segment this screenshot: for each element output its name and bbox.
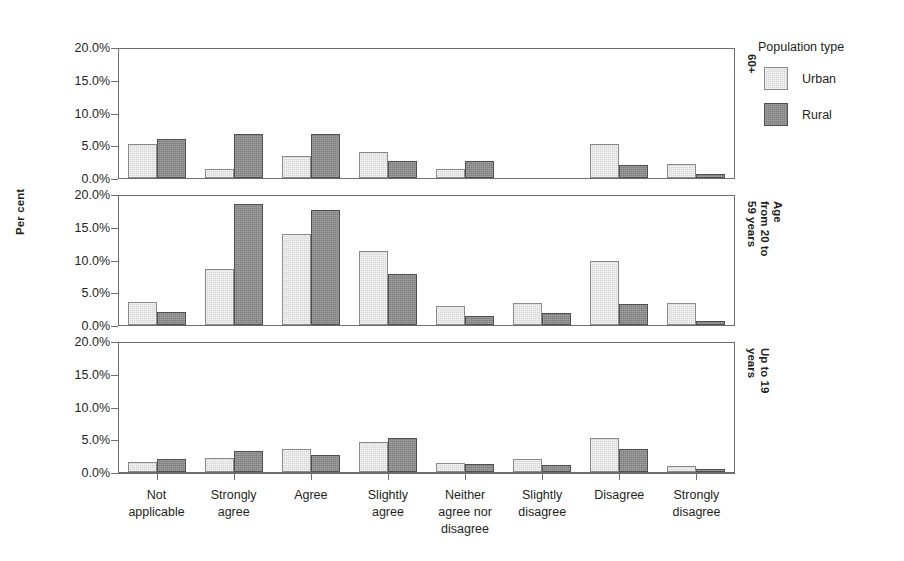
bar-rural	[542, 313, 571, 325]
y-tick-label: 20.0%	[75, 335, 110, 349]
bar-urban	[667, 164, 696, 178]
bar-rural	[542, 465, 571, 472]
x-axis: Not applicableStrongly agreeAgreeSlightl…	[118, 473, 735, 561]
bar-urban	[667, 466, 696, 472]
x-tick-mark	[542, 473, 543, 480]
bar-group	[350, 196, 427, 325]
bar-urban	[359, 152, 388, 178]
y-axis: 0.0%5.0%10.0%15.0%20.0%	[38, 195, 118, 326]
y-tick-label: 5.0%	[82, 433, 111, 447]
y-tick-mark	[111, 228, 118, 229]
y-tick-mark	[111, 114, 118, 115]
bar-rural	[465, 464, 494, 472]
bar-group	[580, 49, 657, 178]
legend-label-urban: Urban	[802, 72, 836, 86]
bar-urban	[128, 144, 157, 178]
bar-rural	[157, 139, 186, 178]
bar-group	[427, 343, 504, 472]
bar-urban	[590, 144, 619, 178]
legend-title: Population type	[758, 40, 898, 54]
bar-group	[350, 343, 427, 472]
panel-strip-label: Age from 20 to 59 years	[745, 195, 865, 326]
chart-panel	[118, 48, 735, 179]
bar-group	[273, 49, 350, 178]
bar-rural	[234, 134, 263, 178]
panel-strip-text: Up to 19 years	[745, 348, 771, 488]
y-tick-label: 0.0%	[82, 466, 111, 480]
panel-strip-text: 60+	[745, 54, 758, 194]
bar-rural	[619, 449, 648, 472]
bar-group	[580, 343, 657, 472]
bar-rural	[465, 316, 494, 325]
bar-rural	[234, 204, 263, 325]
bar-group	[657, 49, 734, 178]
bar-urban	[282, 234, 311, 325]
y-tick-label: 20.0%	[75, 41, 110, 55]
y-tick-mark	[111, 146, 118, 147]
bar-group	[657, 196, 734, 325]
bar-rural	[311, 134, 340, 178]
y-tick-label: 20.0%	[75, 188, 110, 202]
y-tick-mark	[111, 261, 118, 262]
bar-rural	[388, 274, 417, 325]
bar-urban	[667, 303, 696, 325]
y-tick-label: 5.0%	[82, 286, 111, 300]
y-tick-mark	[111, 440, 118, 441]
bar-urban	[359, 251, 388, 325]
x-tick-mark	[696, 473, 697, 480]
legend-item-rural: Rural	[758, 103, 898, 126]
bar-urban	[282, 156, 311, 178]
y-tick-mark	[111, 326, 118, 327]
chart-panel	[118, 195, 735, 326]
bar-urban	[590, 261, 619, 326]
y-axis: 0.0%5.0%10.0%15.0%20.0%	[38, 48, 118, 179]
y-tick-label: 10.0%	[75, 254, 110, 268]
panel-strip-label: Up to 19 years	[745, 342, 865, 473]
bar-rural	[696, 321, 725, 326]
y-tick-mark	[111, 48, 118, 49]
x-tick-label: Strongly disagree	[646, 487, 747, 521]
chart-panel	[118, 342, 735, 473]
bar-group	[273, 343, 350, 472]
bar-group	[119, 196, 196, 325]
legend-item-urban: Urban	[758, 67, 898, 90]
y-tick-label: 0.0%	[82, 172, 111, 186]
x-tick-mark	[234, 473, 235, 480]
bar-rural	[619, 165, 648, 178]
bar-group	[119, 343, 196, 472]
bar-rural	[157, 312, 186, 325]
bar-group	[503, 49, 580, 178]
y-tick-mark	[111, 342, 118, 343]
panel-plot-area	[119, 196, 734, 325]
y-axis-title: Per cent	[14, 135, 34, 235]
bar-rural	[311, 455, 340, 472]
bar-urban	[436, 306, 465, 325]
y-tick-mark	[111, 473, 118, 474]
x-tick-container: Not applicableStrongly agreeAgreeSlightl…	[118, 473, 735, 561]
y-tick-mark	[111, 408, 118, 409]
bar-urban	[128, 462, 157, 472]
bar-group	[427, 49, 504, 178]
x-tick: Strongly disagree	[658, 473, 735, 561]
bar-rural	[311, 210, 340, 325]
legend-swatch-urban	[764, 67, 788, 90]
bar-urban	[590, 438, 619, 472]
y-tick-label: 0.0%	[82, 319, 111, 333]
legend-swatch-rural	[764, 103, 788, 126]
y-axis: 0.0%5.0%10.0%15.0%20.0%	[38, 342, 118, 473]
bar-group	[119, 49, 196, 178]
y-tick-label: 10.0%	[75, 401, 110, 415]
bar-rural	[619, 304, 648, 325]
y-tick-mark	[111, 195, 118, 196]
y-tick-mark	[111, 81, 118, 82]
bar-group	[503, 196, 580, 325]
bar-urban	[436, 169, 465, 178]
bar-group	[657, 343, 734, 472]
legend: Population type Urban Rural	[758, 40, 898, 139]
x-tick-mark	[157, 473, 158, 480]
bar-group	[427, 196, 504, 325]
bar-urban	[128, 302, 157, 325]
bar-urban	[205, 458, 234, 472]
bar-urban	[513, 303, 542, 325]
bar-rural	[157, 459, 186, 472]
